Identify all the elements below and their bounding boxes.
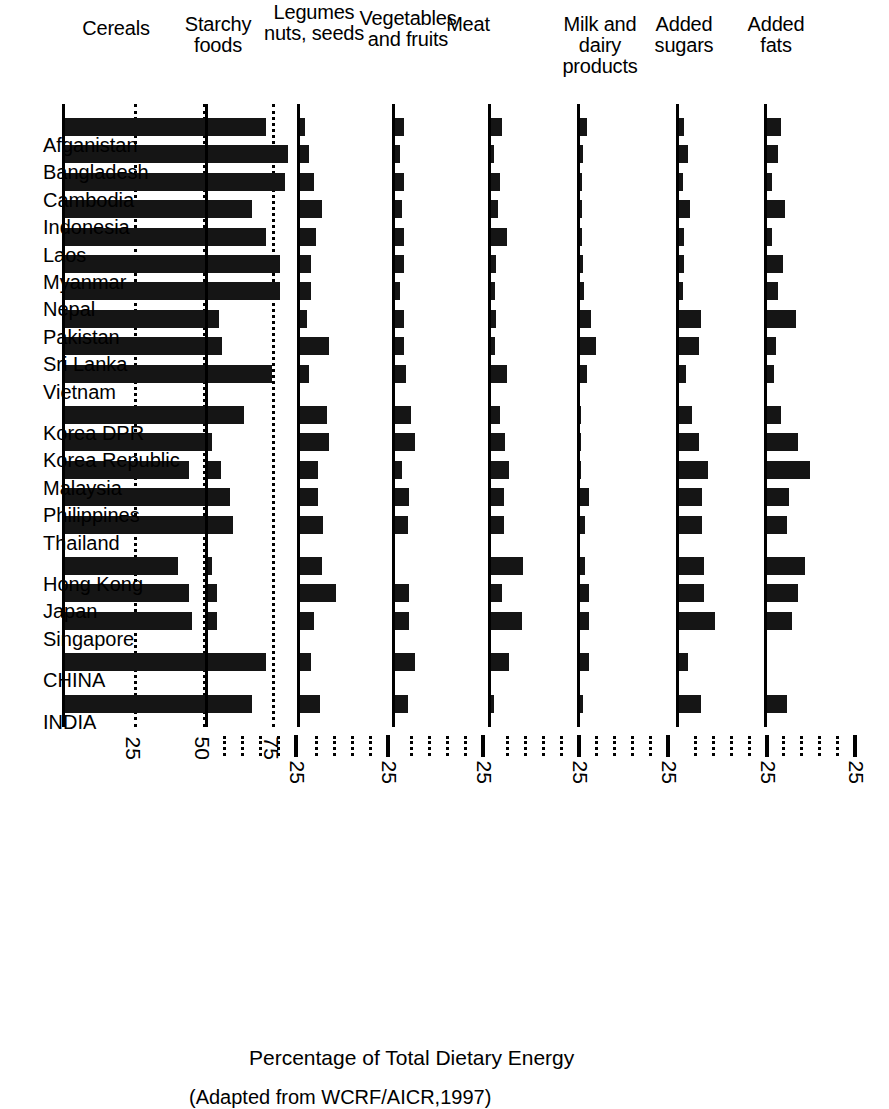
category-label: Laos [43, 245, 86, 265]
category-label: CHINA [43, 670, 105, 690]
category-label: Korea DPR [43, 423, 144, 443]
category-label: Myanmar [43, 272, 126, 292]
category-label: Singapore [43, 629, 134, 649]
category-label: Bangladesh [43, 162, 149, 182]
category-label: Japan [43, 601, 98, 621]
category-label: INDIA [43, 712, 96, 732]
source-note: (Adapted from WCRF/AICR,1997) [189, 1086, 491, 1109]
category-label: Nepal [43, 299, 95, 319]
category-label: Sri Lanka [43, 354, 128, 374]
category-label: Vietnam [43, 382, 116, 402]
category-label: Hong Kong [43, 574, 143, 594]
category-label: Indonesia [43, 217, 130, 237]
category-label: Malaysia [43, 478, 122, 498]
category-label: Philippines [43, 505, 140, 525]
category-label: Korea Republic [43, 450, 180, 470]
category-label: Thailand [43, 533, 120, 553]
category-label: Afganistan [43, 135, 138, 155]
axis-title: Percentage of Total Dietary Energy [249, 1046, 574, 1070]
category-label: Cambodia [43, 190, 134, 210]
category-label: Pakistan [43, 327, 120, 347]
